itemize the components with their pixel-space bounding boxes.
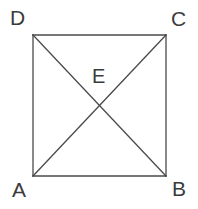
intersection-label-e: E	[92, 66, 105, 86]
geometry-canvas	[0, 0, 198, 209]
diagonals	[33, 35, 166, 176]
vertex-label-d: D	[10, 7, 25, 28]
vertex-label-b: B	[172, 178, 186, 199]
vertex-label-a: A	[12, 179, 26, 200]
geometry-figure: D C A B E	[0, 0, 198, 209]
vertex-label-c: C	[171, 8, 186, 29]
